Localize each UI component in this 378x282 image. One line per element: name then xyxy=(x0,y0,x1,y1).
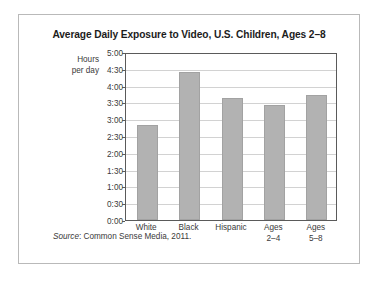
y-axis-tick-label: 1:00 xyxy=(103,183,123,192)
y-axis-tick-label: 1:30 xyxy=(103,166,123,175)
gridline xyxy=(126,70,336,71)
y-axis-tick-label: 4:00 xyxy=(103,82,123,91)
y-axis-tick-label: 3:00 xyxy=(103,116,123,125)
y-axis-caption-line-2: per day xyxy=(43,66,99,77)
x-axis-tick-label-line: 5–8 xyxy=(295,234,337,245)
x-axis-tick-label-line: Ages xyxy=(252,223,294,234)
x-axis-tick-label: Ages5–8 xyxy=(295,223,337,244)
x-axis-tick-label-line: Ages xyxy=(295,223,337,234)
gridline xyxy=(126,87,336,88)
source-label: Source xyxy=(53,232,79,241)
bar xyxy=(222,98,243,220)
y-axis-tick-mark xyxy=(122,221,125,222)
figure-container: Average Daily Exposure to Video, U.S. Ch… xyxy=(18,14,360,264)
y-axis-tick-label: 0:00 xyxy=(103,217,123,226)
y-axis-tick-label: 2:00 xyxy=(103,149,123,158)
bar xyxy=(179,72,200,221)
y-axis-tick-label: 5:00 xyxy=(103,49,123,58)
gridline xyxy=(126,53,336,54)
plot-area xyxy=(125,53,337,221)
y-axis-caption-line-1: Hours xyxy=(43,55,99,66)
y-axis-tick-label: 2:30 xyxy=(103,133,123,142)
source-note: Source: Common Sense Media, 2011. xyxy=(53,232,191,241)
y-axis-tick-label: 3:30 xyxy=(103,99,123,108)
y-axis-caption: Hours per day xyxy=(43,55,99,76)
bar xyxy=(264,105,285,220)
source-text: : Common Sense Media, 2011. xyxy=(79,232,191,241)
x-axis-tick-label: Hispanic xyxy=(210,223,252,234)
y-axis-tick-label: 4:30 xyxy=(103,65,123,74)
x-axis-tick-label: Ages2–4 xyxy=(252,223,294,244)
chart-title: Average Daily Exposure to Video, U.S. Ch… xyxy=(19,29,359,40)
bar xyxy=(306,95,327,220)
x-axis-tick-label-line: 2–4 xyxy=(252,234,294,245)
x-axis-tick-label-line: Hispanic xyxy=(210,223,252,234)
plot-wrapper: 0:000:301:001:302:002:303:003:304:004:30… xyxy=(103,53,337,221)
y-axis-tick-label: 0:30 xyxy=(103,200,123,209)
bar xyxy=(137,125,158,220)
